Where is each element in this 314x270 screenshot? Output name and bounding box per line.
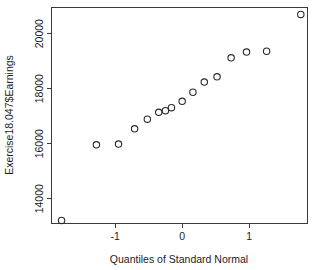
data-point (228, 55, 234, 61)
data-point (144, 116, 150, 122)
data-point (201, 79, 207, 85)
plot-frame (52, 8, 308, 224)
data-point (179, 98, 185, 104)
y-axis: 14000160001800020000 (33, 19, 52, 213)
data-point (131, 126, 137, 132)
data-point (168, 104, 174, 110)
x-axis: -101 (110, 224, 252, 242)
y-tick-label: 18000 (33, 74, 45, 103)
y-tick-label: 16000 (33, 129, 45, 158)
data-point (298, 11, 304, 17)
data-point (156, 109, 162, 115)
plot-frame-box (52, 8, 308, 224)
data-point (214, 74, 220, 80)
x-tick-label: 1 (246, 230, 252, 242)
data-point (93, 142, 99, 148)
y-axis-title: Exercise18.047$Earnings (3, 55, 15, 175)
data-point (58, 217, 64, 223)
data-points-layer (58, 11, 304, 223)
data-point (243, 49, 249, 55)
x-tick-label: -1 (110, 230, 119, 242)
data-point (263, 48, 269, 54)
x-axis-title: Quantiles of Standard Normal (110, 253, 248, 265)
y-tick-label: 20000 (33, 19, 45, 48)
data-point (190, 89, 196, 95)
y-tick-label: 14000 (33, 184, 45, 213)
qq-plot-figure: 14000160001800020000 -101 Quantiles of S… (0, 0, 314, 270)
data-point (162, 107, 168, 113)
x-tick-label: 0 (179, 230, 185, 242)
qq-plot-canvas: 14000160001800020000 -101 Quantiles of S… (0, 0, 314, 270)
data-point (115, 141, 121, 147)
